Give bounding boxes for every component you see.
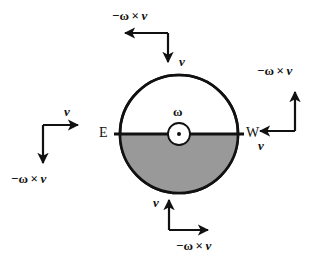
right-v-label: v [258,139,264,152]
east-label: E [99,126,108,140]
top-v-label: v [179,55,185,68]
top-coriolis-v: v [142,8,148,23]
top-coriolis-omega: ω [119,8,129,23]
vector-group-top [125,33,168,62]
omega-label: ω [173,105,183,118]
vector-group-bottom [169,200,208,230]
bottom-coriolis-omega: ω [183,238,193,253]
bottom-coriolis-label: −ω × v [176,239,211,252]
bottom-coriolis-times: × [196,238,203,253]
left-coriolis-v: v [41,171,47,186]
vector-group-left [43,125,78,163]
right-coriolis-times: × [277,63,284,78]
left-coriolis-label: −ω × v [11,172,46,185]
left-coriolis-omega: ω [18,171,28,186]
top-coriolis-times: × [132,8,139,23]
right-coriolis-v: v [287,63,293,78]
top-coriolis-label: −ω × v [112,9,147,22]
right-coriolis-label: −ω × v [257,64,292,77]
coriolis-diagram: ω E W −ω × v v −ω × v v v −ω × v v −ω × … [0,0,326,266]
vector-group-right [260,92,295,131]
bottom-coriolis-v: v [206,238,212,253]
diagram-vector-layer [0,0,326,266]
left-coriolis-times: × [31,171,38,186]
rotation-axis-out-of-page-dot [177,132,181,136]
left-v-label: v [64,105,70,118]
bottom-v-label: v [153,196,159,209]
right-coriolis-omega: ω [264,63,274,78]
